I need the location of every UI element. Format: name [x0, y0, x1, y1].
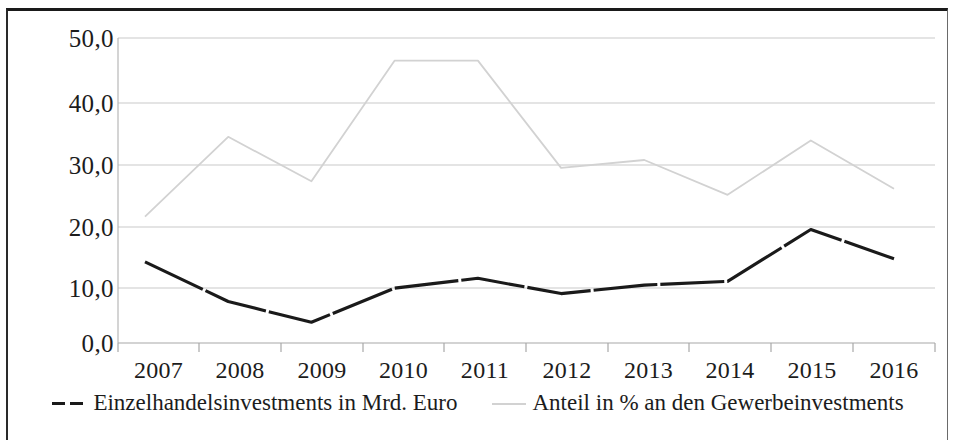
x-tick-label-2011: 2011 — [444, 358, 526, 382]
legend-label-anteil-prozent: Anteil in % an den Gewerbeinvestments — [533, 390, 904, 416]
x-tick-label-2013: 2013 — [608, 358, 689, 382]
x-tick-label-2015: 2015 — [771, 358, 853, 382]
legend-item-anteil-prozent[interactable]: Anteil in % an den Gewerbeinvestments — [492, 390, 904, 416]
gridlines — [118, 38, 935, 288]
x-tick-label-2009: 2009 — [281, 358, 363, 382]
legend-item-einzelhandelsinvestments[interactable]: Einzelhandelsinvestments in Mrd. Euro — [52, 390, 457, 416]
x-tick-label-2014: 2014 — [689, 358, 771, 382]
x-tick-label-2016: 2016 — [853, 358, 935, 382]
x-tick-label-2007: 2007 — [118, 358, 199, 382]
x-tick-label-2010: 2010 — [363, 358, 444, 382]
x-axis-ticks — [118, 343, 935, 352]
chart-legend: Einzelhandelsinvestments in Mrd. Euro An… — [0, 390, 956, 416]
x-tick-label-2012: 2012 — [526, 358, 608, 382]
legend-label-einzelhandelsinvestments: Einzelhandelsinvestments in Mrd. Euro — [93, 390, 457, 416]
dashed-line-marker-icon — [52, 402, 86, 405]
solid-line-marker-icon — [492, 403, 526, 405]
series-line-anteil-prozent — [145, 61, 894, 217]
series-line-einzelhandelsinvestments — [145, 230, 894, 323]
chart-plot-area: 50,0 40,0 30,0 20,0 10,0 0,0 — [0, 0, 956, 447]
chart-page: 50,0 40,0 30,0 20,0 10,0 0,0 — [0, 0, 956, 447]
x-tick-label-2008: 2008 — [199, 358, 281, 382]
